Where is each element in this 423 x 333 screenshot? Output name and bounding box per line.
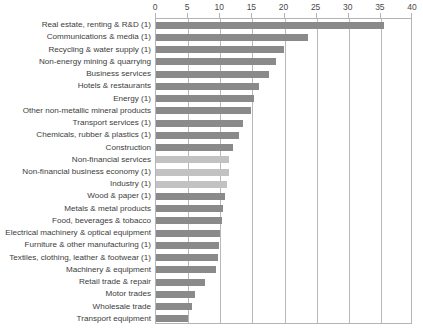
bar bbox=[156, 254, 218, 261]
bar bbox=[156, 83, 259, 90]
x-tick-label: 5 bbox=[185, 2, 190, 13]
y-category-label: Business services bbox=[86, 69, 151, 78]
gridline bbox=[381, 19, 382, 323]
x-tick-label: 40 bbox=[407, 2, 416, 13]
y-category-label: Food, beverages & tobacco bbox=[52, 215, 151, 224]
bar bbox=[156, 107, 251, 114]
bar bbox=[156, 156, 229, 163]
bar bbox=[156, 242, 219, 249]
bar bbox=[156, 315, 188, 322]
bar bbox=[156, 46, 284, 53]
y-category-label: Communications & media (1) bbox=[47, 32, 151, 41]
bar bbox=[156, 230, 220, 237]
y-category-label: Electrical machinery & optical equipment bbox=[5, 228, 151, 237]
x-tick-label: 20 bbox=[279, 2, 288, 13]
x-tick-label: 25 bbox=[311, 2, 320, 13]
bar bbox=[156, 193, 225, 200]
y-category-label: Non-financial services bbox=[72, 154, 151, 163]
y-category-label: Transport equipment bbox=[77, 313, 151, 322]
y-category-label: Recycling & water supply (1) bbox=[48, 44, 151, 53]
bar bbox=[156, 205, 223, 212]
y-category-label: Other non-metallic mineral products bbox=[23, 105, 151, 114]
y-axis-category-labels: Real estate, renting & R&D (1)Communicat… bbox=[0, 18, 153, 324]
y-category-label: Wood & paper (1) bbox=[87, 191, 151, 200]
gridline bbox=[317, 19, 318, 323]
y-category-label: Industry (1) bbox=[110, 179, 151, 188]
bar bbox=[156, 291, 195, 298]
x-tick-label: 30 bbox=[343, 2, 352, 13]
y-category-label: Non-energy mining & quarrying bbox=[39, 56, 151, 65]
bar-chart: 0510152025303540 Real estate, renting & … bbox=[0, 0, 423, 333]
y-category-label: Retail trade & repair bbox=[79, 277, 151, 286]
gridline bbox=[349, 19, 350, 323]
bar bbox=[156, 22, 384, 29]
bar bbox=[156, 217, 222, 224]
y-category-label: Furniture & other manufacturing (1) bbox=[25, 240, 151, 249]
x-tick-label: 10 bbox=[215, 2, 224, 13]
y-category-label: Wholesale trade bbox=[93, 301, 152, 310]
bar bbox=[156, 169, 229, 176]
bar bbox=[156, 132, 239, 139]
y-category-label: Textiles, clothing, leather & footwear (… bbox=[9, 252, 151, 261]
bar bbox=[156, 144, 233, 151]
bar bbox=[156, 120, 243, 127]
bar bbox=[156, 34, 308, 41]
bar bbox=[156, 181, 227, 188]
y-category-label: Energy (1) bbox=[113, 93, 151, 102]
x-tick-label: 15 bbox=[247, 2, 256, 13]
y-category-label: Construction bbox=[106, 142, 151, 151]
bar bbox=[156, 266, 216, 273]
x-tick-label: 35 bbox=[375, 2, 384, 13]
y-category-label: Metals & metal products bbox=[64, 203, 151, 212]
y-category-label: Chemicals, rubber & plastics (1) bbox=[36, 130, 151, 139]
bar bbox=[156, 95, 254, 102]
y-category-label: Hotels & restaurants bbox=[78, 81, 151, 90]
plot-area bbox=[155, 18, 412, 324]
y-category-label: Transport services (1) bbox=[73, 118, 151, 127]
y-category-label: Motor trades bbox=[106, 289, 151, 298]
y-category-label: Non-financial business economy (1) bbox=[22, 167, 151, 176]
y-category-label: Machinery & equipment bbox=[66, 264, 151, 273]
bar bbox=[156, 303, 192, 310]
x-tick-label: 0 bbox=[153, 2, 158, 13]
gridline bbox=[285, 19, 286, 323]
y-category-label: Real estate, renting & R&D (1) bbox=[42, 20, 151, 29]
bar bbox=[156, 71, 269, 78]
x-axis: 0510152025303540 bbox=[0, 0, 423, 18]
bar bbox=[156, 58, 276, 65]
bar bbox=[156, 279, 205, 286]
